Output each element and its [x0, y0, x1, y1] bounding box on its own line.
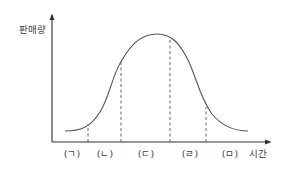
stage-label-5: (ㅁ)	[222, 148, 238, 159]
stage-label-2: (ㄴ)	[97, 148, 113, 159]
stage-label-3: (ㄷ)	[138, 148, 154, 159]
x-axis-label: 시간	[249, 148, 267, 159]
y-axis-label: 판매량	[19, 24, 46, 35]
stage-label-1: (ㄱ)	[64, 148, 80, 159]
stage-label-4: (ㄹ)	[182, 148, 198, 159]
stage-dividers	[88, 38, 206, 142]
sales-curve	[65, 34, 248, 131]
product-life-cycle-diagram: 판매량 시간 (ㄱ) (ㄴ) (ㄷ) (ㄹ) (ㅁ)	[0, 0, 284, 172]
